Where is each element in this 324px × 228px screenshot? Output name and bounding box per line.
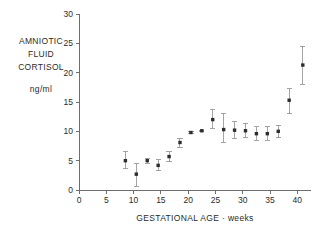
x-tick-label: 10 xyxy=(129,195,139,205)
y-tick-label: 15 xyxy=(64,97,74,107)
y-tick-label: 5 xyxy=(68,156,73,166)
data-point-marker xyxy=(189,131,192,134)
chart-figure: 0510152025300510152025303540GESTATIONAL … xyxy=(0,0,324,228)
data-point-marker xyxy=(124,159,127,162)
data-point-marker xyxy=(222,128,225,131)
x-tick-label: 20 xyxy=(183,195,193,205)
data-point-marker xyxy=(178,141,181,144)
data-point-marker xyxy=(301,63,304,66)
data-point-marker xyxy=(167,155,170,158)
data-point-marker xyxy=(156,164,159,167)
y-tick-label: 25 xyxy=(64,38,74,48)
y-tick-label: 30 xyxy=(64,9,74,19)
data-point-marker xyxy=(255,132,258,135)
data-point-marker xyxy=(135,172,138,175)
x-tick-label: 30 xyxy=(238,195,248,205)
x-tick-label: 5 xyxy=(104,195,109,205)
data-point-marker xyxy=(287,99,290,102)
y-tick-label: 10 xyxy=(64,126,74,136)
y-tick-label: 0 xyxy=(68,185,73,195)
x-tick-label: 15 xyxy=(156,195,166,205)
plot-axes xyxy=(79,14,311,190)
data-point-marker xyxy=(233,128,236,131)
y-axis-units-label: ng/ml xyxy=(30,84,52,94)
data-point-marker xyxy=(200,129,203,132)
data-point-marker xyxy=(266,132,269,135)
data-point-marker xyxy=(277,130,280,133)
x-axis-title: GESTATIONAL AGE · weeks xyxy=(136,213,253,223)
x-tick-label: 40 xyxy=(293,195,303,205)
data-point-marker xyxy=(146,159,149,162)
y-axis-title-line: AMNIOTIC xyxy=(19,36,63,46)
data-point-marker xyxy=(211,118,214,121)
y-axis-title-line: FLUID xyxy=(28,49,54,59)
x-tick-label: 0 xyxy=(77,195,82,205)
y-axis-title-line: CORTISOL xyxy=(18,62,64,72)
x-tick-label: 25 xyxy=(211,195,221,205)
data-point-marker xyxy=(244,129,247,132)
scatter-plot: 0510152025300510152025303540GESTATIONAL … xyxy=(0,0,324,228)
y-tick-label: 20 xyxy=(64,68,74,78)
x-tick-label: 35 xyxy=(265,195,275,205)
